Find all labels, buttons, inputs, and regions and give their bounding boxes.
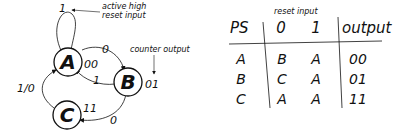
svg-text:A: A bbox=[235, 51, 246, 67]
svg-text:A: A bbox=[58, 50, 75, 74]
annotation-arrow bbox=[72, 10, 100, 12]
svg-text:A: A bbox=[310, 51, 321, 67]
table-caption: reset input bbox=[274, 7, 318, 16]
svg-text:11: 11 bbox=[349, 91, 367, 107]
svg-text:A: A bbox=[310, 71, 321, 87]
output-b: 01 bbox=[145, 78, 159, 91]
svg-text:A: A bbox=[276, 91, 287, 107]
state-b: B bbox=[114, 68, 142, 96]
header-0: 0 bbox=[276, 19, 286, 37]
annotation-reset-line1: active high bbox=[102, 2, 146, 11]
svg-text:C: C bbox=[277, 71, 287, 87]
svg-text:B: B bbox=[277, 51, 287, 67]
svg-text:B: B bbox=[120, 70, 135, 94]
state-c: C bbox=[53, 101, 81, 129]
svg-text:A: A bbox=[310, 91, 321, 107]
label-b-to-a: 1 bbox=[93, 74, 100, 87]
state-table: reset input PS 0 1 output A B A 00 B C A… bbox=[229, 7, 393, 108]
label-a-to-b: 0 bbox=[102, 43, 109, 56]
header-output: output bbox=[342, 19, 393, 37]
table-row-c: C A A 11 bbox=[236, 91, 367, 107]
label-a-self: 1 bbox=[59, 2, 66, 15]
table-row-b: B C A 01 bbox=[236, 71, 367, 87]
svg-text:C: C bbox=[60, 103, 75, 127]
annotation-counter: counter output bbox=[130, 45, 191, 54]
svg-text:01: 01 bbox=[349, 71, 367, 87]
annotation-reset-line2: reset input bbox=[102, 11, 146, 20]
svg-text:B: B bbox=[236, 71, 246, 87]
table-row-a: A B A 00 bbox=[235, 51, 367, 67]
svg-text:C: C bbox=[236, 91, 246, 107]
transition-c-to-a bbox=[42, 70, 56, 108]
header-divider bbox=[229, 41, 382, 44]
column-divider-1 bbox=[263, 22, 270, 108]
label-b-to-c: 0 bbox=[110, 114, 117, 127]
output-a: 00 bbox=[84, 58, 98, 71]
state-diagram: 1 active high reset input 0 1 0 1/0 coun… bbox=[0, 0, 409, 132]
header-ps: PS bbox=[230, 19, 249, 37]
label-c-to-a: 1/0 bbox=[17, 82, 35, 95]
header-1: 1 bbox=[311, 19, 321, 37]
output-c: 11 bbox=[83, 102, 97, 115]
state-a: A bbox=[54, 48, 82, 76]
svg-text:00: 00 bbox=[349, 51, 367, 67]
